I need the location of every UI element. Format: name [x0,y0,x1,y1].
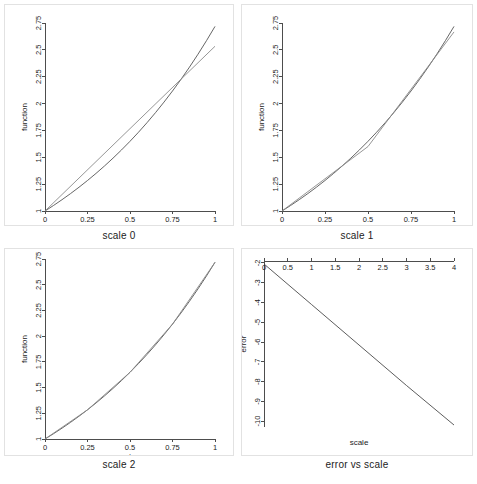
x-tick-label: 1 [213,443,217,452]
y-tick-label: 1.25 [34,177,43,192]
x-tick-label: 1 [452,215,456,224]
plot-scale-2: 11.251.51.7522.252.52.7500.250.50.751tfu… [5,249,233,455]
y-tick-label: 1 [34,209,43,213]
plot-error-vs-scale: 00.511.522.533.54-2-3-4-5-6-7-8-9-10scal… [242,249,472,455]
x-tick-label: 3.5 [425,263,435,272]
series-approximation [282,32,454,211]
y-axis-title: error [242,335,248,352]
x-axis-title: t [367,224,370,225]
x-tick-label: 0.75 [404,215,419,224]
y-tick-label: -8 [253,378,262,385]
x-tick-label: 0 [43,443,47,452]
y-tick-label: 1.75 [34,123,43,138]
y-tick-label: 2.25 [34,69,43,84]
y-tick-label: 2.25 [271,69,280,84]
series-exact [45,262,215,439]
panel-scale-0: 11.251.51.7522.252.52.7500.250.50.751tfu… [4,4,234,226]
series-approximation [45,262,215,439]
y-axis-title: function [20,335,29,363]
y-tick-label: 2 [34,334,43,338]
y-tick-label: 1.25 [271,177,280,192]
x-tick-label: 0.25 [80,443,95,452]
x-tick-label: 0.25 [80,215,95,224]
x-tick-label: 2.5 [378,263,388,272]
y-tick-label: 2.5 [34,279,43,289]
x-tick-label: 0 [280,215,284,224]
x-tick-label: 0 [43,215,47,224]
y-tick-label: -9 [253,398,262,405]
x-tick-label: 0.25 [318,215,333,224]
y-tick-label: 2.5 [271,45,280,55]
x-tick-label: 4 [452,263,456,272]
x-axis-title: t [129,224,132,225]
y-tick-label: -7 [253,358,262,365]
y-tick-label: -4 [253,299,262,306]
panel-title-scale-0: scale 0 [4,230,234,241]
plot-scale-1: 11.251.51.7522.252.52.7500.250.50.751tfu… [242,5,472,225]
y-tick-label: 2 [34,101,43,105]
x-axis-title: scale [350,438,369,447]
x-tick-label: 3 [404,263,408,272]
y-tick-label: 1.75 [271,123,280,138]
y-tick-label: 1.25 [34,406,43,421]
x-tick-label: 1.5 [330,263,340,272]
y-tick-label: 1.5 [34,382,43,392]
panel-scale-2: 11.251.51.7522.252.52.7500.250.50.751tfu… [4,248,234,456]
y-axis-title: function [257,103,266,131]
y-tick-label: 2.75 [271,16,280,31]
series-exact [282,26,454,211]
panel-error-vs-scale: 00.511.522.533.54-2-3-4-5-6-7-8-9-10scal… [241,248,473,456]
y-tick-label: 1.5 [271,152,280,162]
panel-title-scale-1: scale 1 [241,230,473,241]
x-tick-label: 0.75 [165,215,180,224]
y-tick-label: 1 [271,209,280,213]
y-tick-label: -3 [253,279,262,286]
y-tick-label: -6 [253,339,262,346]
x-tick-label: 2 [357,263,361,272]
y-tick-label: 2 [271,101,280,105]
y-tick-label: 2.5 [34,45,43,55]
panel-title-error-vs-scale: error vs scale [241,459,473,470]
y-tick-label: 2.75 [34,16,43,31]
series-exact [45,26,215,211]
y-tick-label: -2 [253,260,262,267]
y-tick-label: 2.75 [34,252,43,267]
y-tick-label: -5 [253,319,262,326]
y-tick-label: 2.25 [34,303,43,318]
panel-title-scale-2: scale 2 [4,459,234,470]
panel-scale-1: 11.251.51.7522.252.52.7500.250.50.751tfu… [241,4,473,226]
y-tick-label: 1.75 [34,355,43,370]
plot-scale-0: 11.251.51.7522.252.52.7500.250.50.751tfu… [5,5,233,225]
x-axis-title: t [129,452,132,455]
x-tick-label: 0.75 [165,443,180,452]
x-tick-label: 0.5 [363,215,373,224]
y-tick-label: 1.5 [34,152,43,162]
x-tick-label: 0.5 [125,443,135,452]
figure-canvas: 11.251.51.7522.252.52.7500.250.50.751tfu… [0,0,477,484]
series-approximation [45,46,215,211]
y-tick-label: -10 [253,416,262,427]
x-tick-label: 1 [309,263,313,272]
y-tick-label: 1 [34,437,43,441]
x-tick-label: 1 [213,215,217,224]
x-tick-label: 0.5 [125,215,135,224]
x-tick-label: 0.5 [283,263,293,272]
series-error [264,264,454,425]
y-axis-title: function [20,103,29,131]
